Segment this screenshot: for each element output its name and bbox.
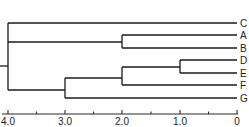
x-tick-label: 1.0: [173, 116, 187, 127]
leaf-label-B: B: [240, 43, 247, 54]
leaf-label-F: F: [240, 80, 246, 91]
leaf-labels: C A B D E F G: [240, 18, 248, 104]
x-tick-label: 3.0: [58, 116, 72, 127]
leaf-label-G: G: [240, 93, 248, 104]
dendrogram-chart: C A B D E F G 4.0 3.0 2.0 1.0 0: [0, 0, 249, 127]
x-tick-label: 2.0: [115, 116, 129, 127]
leaf-label-C: C: [240, 18, 247, 29]
leaf-label-D: D: [240, 55, 247, 66]
leaf-label-E: E: [240, 68, 247, 79]
x-tick-label: 4.0: [1, 116, 15, 127]
x-axis: 4.0 3.0 2.0 1.0 0: [1, 110, 240, 127]
dendrogram-branches: [0, 23, 237, 98]
x-tick-label: 0: [234, 116, 240, 127]
leaf-label-A: A: [240, 30, 247, 41]
